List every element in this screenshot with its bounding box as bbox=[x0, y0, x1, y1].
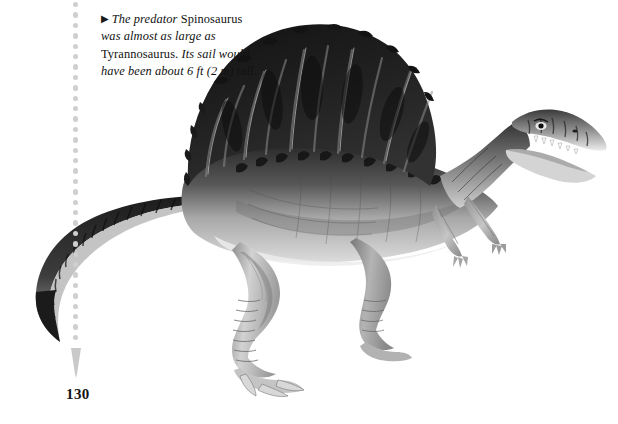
leader-dot bbox=[73, 2, 78, 7]
leader-dot bbox=[73, 75, 78, 80]
page-number: 130 bbox=[66, 386, 90, 403]
leader-dot bbox=[73, 241, 78, 246]
leader-dot bbox=[73, 44, 78, 49]
leader-dot bbox=[73, 220, 78, 225]
leader-dot bbox=[73, 179, 78, 184]
leader-dot bbox=[73, 200, 78, 205]
caption-segment-1: Spinosaurus bbox=[181, 12, 243, 26]
body-group bbox=[182, 145, 498, 266]
caption-segment-2: was almost as large as bbox=[101, 29, 216, 43]
leader-dot bbox=[73, 33, 78, 38]
caption-segment-0: The predator bbox=[112, 12, 181, 26]
leader-dot bbox=[73, 168, 78, 173]
neck-group bbox=[440, 120, 530, 208]
book-page: ▶The predator Spinosaurus was almost as … bbox=[0, 0, 618, 424]
leader-dot bbox=[73, 23, 78, 28]
caption-bullet-icon: ▶ bbox=[101, 13, 112, 24]
leader-dot bbox=[73, 12, 78, 17]
leader-dot bbox=[73, 137, 78, 142]
hindlegs-group bbox=[232, 238, 412, 397]
leader-dot bbox=[73, 314, 78, 319]
leader-dot bbox=[73, 158, 78, 163]
head-group bbox=[506, 110, 607, 183]
leader-arrowhead-icon bbox=[68, 348, 84, 378]
leader-dot bbox=[73, 324, 78, 329]
leader-dot bbox=[73, 304, 78, 309]
leader-dot bbox=[73, 189, 78, 194]
leader-dot bbox=[73, 252, 78, 257]
figure-caption: ▶The predator Spinosaurus was almost as … bbox=[101, 11, 261, 81]
leader-dot bbox=[73, 106, 78, 111]
leader-dot bbox=[73, 272, 78, 277]
leader-dot bbox=[73, 283, 78, 288]
leader-dot bbox=[73, 116, 78, 121]
dotted-leader-line bbox=[73, 2, 80, 346]
leader-dot bbox=[73, 210, 78, 215]
leader-dot bbox=[73, 64, 78, 69]
forelimbs-group bbox=[432, 196, 506, 268]
leader-dot bbox=[73, 335, 78, 340]
leader-dot bbox=[73, 293, 78, 298]
leader-dot bbox=[73, 54, 78, 59]
leader-dot bbox=[73, 148, 78, 153]
leader-dot bbox=[73, 127, 78, 132]
leader-dot bbox=[73, 231, 78, 236]
spinosaurus-illustration bbox=[0, 0, 618, 424]
leader-dot bbox=[73, 85, 78, 90]
caption-segment-3: Tyrannosaurus. bbox=[101, 47, 178, 61]
tail-group bbox=[36, 196, 204, 342]
leader-dot bbox=[73, 262, 78, 267]
eye bbox=[534, 119, 548, 130]
leader-dot bbox=[73, 96, 78, 101]
